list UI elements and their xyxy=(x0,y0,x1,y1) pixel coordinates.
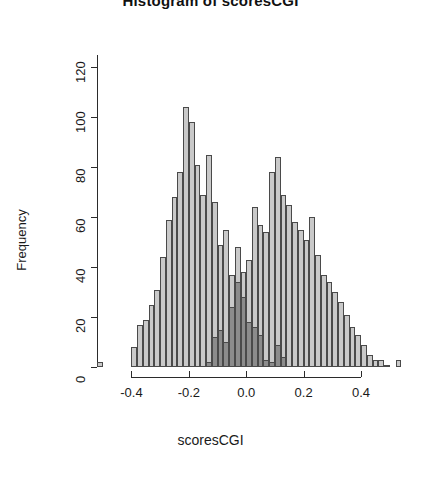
histogram-bar xyxy=(97,362,103,367)
x-tick-label: 0.0 xyxy=(221,386,271,399)
x-tick-label: -0.2 xyxy=(164,386,214,399)
x-tick xyxy=(304,371,305,377)
x-tick-label: 0.4 xyxy=(336,386,386,399)
y-axis-title: Frequency xyxy=(14,209,29,270)
y-tick-label: 20 xyxy=(74,301,87,333)
y-tick xyxy=(91,317,97,318)
x-tick-label: -0.4 xyxy=(106,386,156,399)
histogram-bars xyxy=(97,55,407,367)
x-tick-label: 0.2 xyxy=(279,386,329,399)
histogram-bar xyxy=(384,365,390,367)
x-tick xyxy=(361,371,362,377)
y-tick xyxy=(91,217,97,218)
y-tick-label: 40 xyxy=(74,251,87,283)
y-tick xyxy=(91,367,97,368)
y-tick-label: 0 xyxy=(74,351,87,383)
y-tick xyxy=(91,267,97,268)
y-tick xyxy=(91,117,97,118)
y-tick-label: 100 xyxy=(74,101,87,133)
x-axis-title: scoresCGI xyxy=(0,432,421,448)
histogram-bar xyxy=(281,357,287,367)
y-tick-label: 120 xyxy=(74,51,87,83)
y-tick xyxy=(91,167,97,168)
y-tick-label: 60 xyxy=(74,201,87,233)
x-tick xyxy=(131,371,132,377)
x-tick xyxy=(246,371,247,377)
x-tick xyxy=(189,371,190,377)
y-tick-label: 80 xyxy=(74,151,87,183)
chart-title: Histogram of scoresCGI xyxy=(0,0,421,9)
y-axis-line xyxy=(97,55,98,367)
x-axis-line xyxy=(131,377,361,378)
plot-area xyxy=(97,40,407,367)
chart-root: Histogram of scoresCGI 020406080100120 -… xyxy=(0,0,421,480)
histogram-bar xyxy=(396,360,402,367)
y-tick xyxy=(91,67,97,68)
